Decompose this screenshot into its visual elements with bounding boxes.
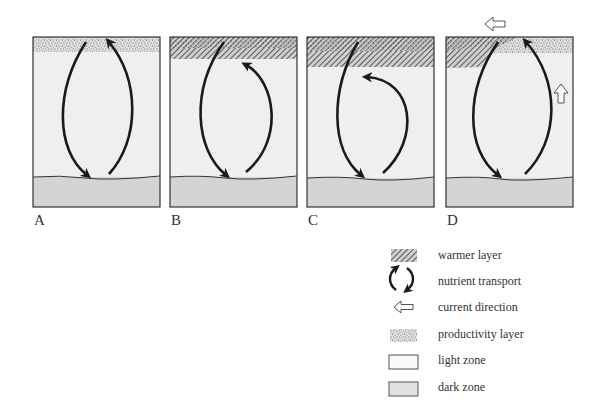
legend-label-dark-zone: dark zone — [438, 380, 485, 395]
legend-label-current-direction: current direction — [438, 300, 518, 315]
legend-label-warmer-layer: warmer layer — [438, 248, 502, 263]
light-box-icon — [389, 355, 418, 369]
dark-box-icon — [389, 382, 418, 396]
panel-label-c: C — [308, 212, 318, 229]
panel-b — [170, 37, 297, 207]
diagram-canvas — [0, 0, 605, 410]
legend-label-nutrient-transport: nutrient transport — [438, 274, 521, 289]
current-direction-left-icon — [485, 17, 505, 31]
legend — [389, 249, 418, 396]
panel-d — [446, 17, 573, 207]
panel-a — [33, 37, 160, 207]
legend-label-productivity-layer: productivity layer — [438, 327, 524, 342]
nutrient-cycle-icon — [390, 268, 413, 290]
legend-label-light-zone: light zone — [438, 353, 486, 368]
panel-label-b: B — [171, 212, 181, 229]
panel-label-d: D — [447, 212, 458, 229]
dark-zone — [170, 177, 297, 207]
dark-zone — [33, 177, 160, 207]
panel-c — [307, 37, 434, 207]
productivity-layer — [33, 37, 160, 52]
hatch-icon — [391, 249, 417, 262]
dark-zone — [446, 178, 573, 207]
stipple-icon — [390, 329, 417, 342]
panel-label-a: A — [34, 212, 45, 229]
dark-zone — [307, 178, 434, 207]
hollow-arrow-left-icon — [394, 301, 413, 313]
